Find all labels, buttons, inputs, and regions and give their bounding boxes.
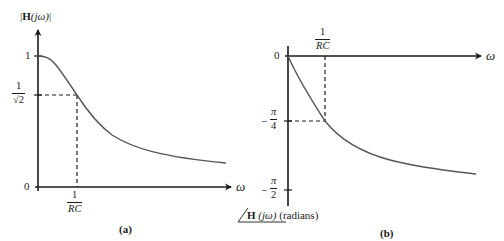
panel-a-magnitude-curve <box>38 56 226 163</box>
panel-b-caption: (b) <box>380 227 393 239</box>
panel-b-tick-neg-pi2: π 2 <box>270 176 277 200</box>
panel-b-phase-curve <box>288 56 476 174</box>
panel-b-tick-neg-pi4: π 4 <box>270 107 277 131</box>
panel-a-x-axis-label: ω <box>236 180 245 193</box>
panel-b-x-axis-label: ω <box>486 49 495 62</box>
panel-a-tick-cutoff: 1 RC <box>67 190 82 214</box>
panel-a-tick-one: 1 <box>25 50 31 61</box>
panel-b-tick-neg-pi4-minus: − <box>261 116 267 127</box>
panel-b-tick-cutoff: 1 RC <box>315 27 330 51</box>
panel-a-tick-inv-sqrt2: 1 √2 <box>12 81 25 105</box>
panel-b-tick-neg-pi2-minus: − <box>261 185 267 196</box>
panel-a-caption: (a) <box>119 223 132 235</box>
panel-a-tick-zero: 0 <box>24 181 30 192</box>
panel-b-tick-zero: 0 <box>274 50 280 61</box>
panel-a-magnitude-plot <box>34 30 231 191</box>
panel-b-y-axis-label: H (jω) (radians) <box>247 210 318 221</box>
panel-a-y-axis-label: |H(jω)| <box>20 11 51 22</box>
